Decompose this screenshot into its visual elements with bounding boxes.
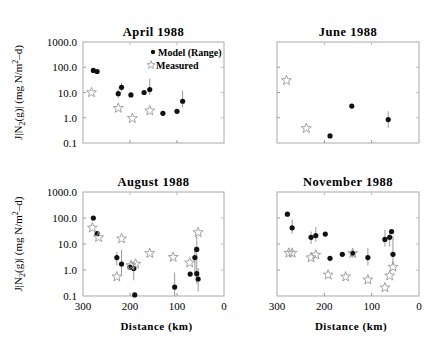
model-point	[313, 233, 318, 238]
model-point	[160, 111, 165, 116]
measured-star	[168, 252, 178, 261]
model-point	[308, 235, 313, 240]
model-point	[142, 90, 147, 95]
model-point	[323, 232, 328, 237]
model-point	[327, 133, 332, 138]
model-point	[91, 215, 96, 220]
panel-august-1988: August 19881000.0100.010.01.00.1J|N2(g)|…	[11, 175, 227, 333]
model-point	[285, 212, 290, 217]
model-point	[382, 237, 387, 242]
model-point	[194, 247, 199, 252]
x-tick-label: 100	[169, 300, 186, 312]
legend-measured-label: Measured	[156, 60, 199, 71]
measured-star	[117, 234, 127, 243]
model-point	[119, 85, 124, 90]
panel-june-1988: June 1988	[277, 25, 419, 143]
figure: April 19881000.0100.010.01.00.1J|N2(g)| …	[0, 0, 442, 348]
legend: Model (Range)Measured	[147, 47, 222, 71]
legend-model-marker	[151, 50, 155, 54]
y-tick-label: 0.1	[63, 137, 77, 149]
model-point	[174, 109, 179, 114]
measured-star	[282, 75, 292, 84]
model-point	[390, 252, 395, 257]
model-point	[132, 292, 137, 297]
model-point	[349, 103, 354, 108]
model-point	[194, 271, 199, 276]
measured-star	[385, 271, 395, 280]
model-point	[389, 229, 394, 234]
y-axis-label: J|N2(g)| (mg N/m2–d)	[11, 45, 27, 140]
model-point	[386, 117, 391, 122]
model-point	[180, 99, 185, 104]
measured-star	[193, 227, 203, 236]
measured-star	[363, 275, 373, 284]
model-point	[128, 92, 133, 97]
plot-frame	[83, 192, 224, 296]
x-tick-label: 200	[122, 300, 139, 312]
legend-measured-marker	[147, 61, 155, 69]
plot-frame	[277, 42, 419, 143]
model-point	[147, 87, 152, 92]
measured-star	[323, 270, 333, 279]
measured-star	[127, 113, 137, 122]
measured-star	[145, 106, 155, 115]
measured-star	[341, 272, 351, 281]
y-tick-label: 100.0	[52, 61, 77, 73]
model-point	[114, 255, 119, 260]
x-tick-label: 300	[75, 300, 92, 312]
measured-star	[113, 103, 123, 113]
measured-star	[88, 223, 98, 232]
y-tick-label: 10.0	[58, 87, 78, 99]
model-point	[290, 225, 295, 230]
model-point	[188, 271, 193, 276]
x-tick-label: 100	[363, 300, 380, 312]
measured-star	[388, 262, 398, 271]
model-point	[95, 69, 100, 74]
model-point	[116, 91, 121, 96]
panel-title: April 1988	[123, 25, 185, 39]
panel-april-1988: April 19881000.0100.010.01.00.1J|N2(g)| …	[11, 25, 224, 149]
measured-star	[380, 282, 390, 291]
y-tick-label: 10.0	[58, 238, 78, 250]
model-point	[196, 276, 201, 281]
x-axis-label: Distance (km)	[120, 320, 192, 333]
model-point	[119, 261, 124, 266]
y-tick-label: 1000.0	[47, 36, 78, 48]
y-tick-label: 1.0	[63, 264, 77, 276]
model-point	[387, 235, 392, 240]
y-tick-label: 1.0	[63, 112, 77, 124]
panel-title: November 1988	[303, 175, 393, 189]
legend-model-label: Model (Range)	[158, 47, 222, 59]
y-tick-label: 100.0	[52, 212, 77, 224]
measured-star	[145, 248, 155, 257]
x-tick-label: 300	[269, 300, 286, 312]
model-point	[340, 252, 345, 257]
measured-star	[112, 272, 122, 281]
x-tick-label: 0	[416, 300, 422, 312]
x-tick-label: 200	[316, 300, 333, 312]
measured-star	[311, 250, 321, 259]
model-point	[172, 284, 177, 289]
y-tick-label: 1000.0	[47, 186, 78, 198]
measured-star	[301, 123, 311, 132]
panel-title: August 1988	[118, 175, 190, 189]
x-axis-label: Distance (km)	[315, 320, 387, 333]
panel-november-1988: November 19883002001000Distance (km)	[269, 175, 423, 333]
model-point	[192, 255, 197, 260]
model-point	[327, 256, 332, 261]
panel-title: June 1988	[319, 25, 377, 39]
x-tick-label: 0	[221, 300, 227, 312]
model-point	[365, 255, 370, 260]
y-axis-label: J|N2(g)| (mg N/m2–d)	[11, 196, 27, 291]
measured-star	[87, 87, 97, 96]
